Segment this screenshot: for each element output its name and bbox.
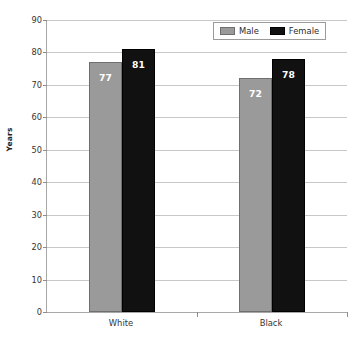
y-axis-tick-mark (43, 215, 47, 216)
legend-swatch-male (220, 27, 235, 35)
bar-groups: 77817278 (47, 20, 347, 312)
y-axis-tick-mark (43, 280, 47, 281)
y-axis-tick-label: 40 (18, 177, 42, 187)
legend-item[interactable]: Male (220, 26, 259, 36)
y-axis-tick-mark (43, 312, 47, 313)
x-axis-tick-labels: WhiteBlack (46, 318, 347, 332)
y-axis-tick-label: 0 (18, 307, 42, 317)
legend: MaleFemale (213, 22, 326, 40)
bar[interactable]: 81 (122, 49, 155, 312)
y-axis-tick-mark (43, 20, 47, 21)
bar-value-label: 81 (123, 59, 154, 70)
y-axis-tick-mark (43, 85, 47, 86)
y-axis-tick-label: 20 (18, 242, 42, 252)
y-axis-tick-label: 70 (18, 80, 42, 90)
bar-group: 7781 (89, 20, 155, 312)
x-axis-tick-mark (197, 312, 198, 317)
y-axis-tick-mark (43, 247, 47, 248)
y-axis-tick-labels: 0102030405060708090 (18, 20, 42, 313)
legend-label: Male (239, 26, 259, 36)
bar-value-label: 72 (240, 88, 271, 99)
legend-swatch-female (270, 27, 285, 35)
legend-label: Female (289, 26, 319, 36)
y-axis-tick-mark (43, 150, 47, 151)
bar-group: 7278 (239, 20, 305, 312)
y-axis-tick-label: 90 (18, 15, 42, 25)
y-axis-tick-mark (43, 52, 47, 53)
y-axis-tick-label: 30 (18, 210, 42, 220)
x-axis-tick-mark (347, 312, 348, 317)
bar[interactable]: 78 (272, 59, 305, 312)
bar-value-label: 77 (90, 72, 121, 83)
bar-chart: Years 0102030405060708090 77817278 White… (0, 0, 357, 337)
y-axis-tick-label: 10 (18, 275, 42, 285)
bar-value-label: 78 (273, 69, 304, 80)
legend-item[interactable]: Female (270, 26, 319, 36)
bar[interactable]: 72 (239, 78, 272, 312)
x-axis-tick-label: Black (260, 318, 283, 328)
y-axis-tick-label: 50 (18, 145, 42, 155)
y-axis-tick-mark (43, 117, 47, 118)
y-axis-tick-mark (43, 182, 47, 183)
plot-area: 77817278 (46, 20, 347, 313)
bar[interactable]: 77 (89, 62, 122, 312)
y-axis-tick-label: 60 (18, 112, 42, 122)
y-axis-title: Years (5, 138, 14, 152)
y-axis-tick-label: 80 (18, 47, 42, 57)
x-axis-tick-label: White (109, 318, 133, 328)
